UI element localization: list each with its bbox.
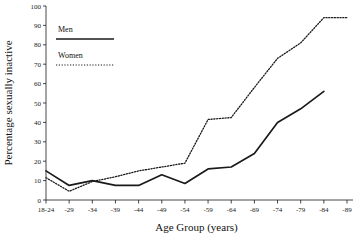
y-axis-tick-label: 40 <box>34 119 42 127</box>
y-axis-tick-label: 30 <box>34 138 42 146</box>
y-axis-tick-label: 70 <box>34 61 42 69</box>
y-axis-tick-label: 90 <box>34 22 42 30</box>
x-axis-tick-label: -74 <box>273 206 283 214</box>
legend-label-men: Men <box>58 25 73 34</box>
series-line-women <box>46 18 347 192</box>
x-axis-tick-label: -69 <box>250 206 260 214</box>
y-axis-tick-label: 10 <box>34 177 42 185</box>
x-axis-tick-label: -49 <box>157 206 167 214</box>
x-axis-tick-label: -79 <box>296 206 306 214</box>
x-axis-tick-label: -29 <box>64 206 74 214</box>
y-axis-tick-label: 50 <box>34 100 42 108</box>
x-axis-tick-label: -39 <box>111 206 121 214</box>
y-axis-tick-label: 80 <box>34 41 42 49</box>
x-axis-tick-label: -84 <box>319 206 329 214</box>
y-axis-tick-label: 20 <box>34 158 42 166</box>
y-axis-tick-label: 0 <box>38 197 42 205</box>
x-axis-tick-label: -59 <box>203 206 213 214</box>
x-axis-tick-label: -54 <box>180 206 190 214</box>
y-axis-tick-label: 100 <box>31 3 42 11</box>
line-chart: 010203040506070809010018-24-29-34-39-44-… <box>0 0 356 239</box>
chart-container: 010203040506070809010018-24-29-34-39-44-… <box>0 0 356 239</box>
y-axis-title: Percentage sexually inactive <box>2 40 14 165</box>
series-line-men <box>46 91 324 185</box>
legend-label-women: Women <box>58 51 83 60</box>
x-axis-title: Age Group (years) <box>155 221 238 234</box>
y-axis-tick-label: 60 <box>34 80 42 88</box>
x-axis-tick-label: -34 <box>88 206 98 214</box>
x-axis-tick-label: 18-24 <box>38 206 55 214</box>
x-axis-tick-label: -64 <box>227 206 237 214</box>
x-axis-tick-label: -44 <box>134 206 144 214</box>
x-axis-tick-label: -89 <box>342 206 352 214</box>
